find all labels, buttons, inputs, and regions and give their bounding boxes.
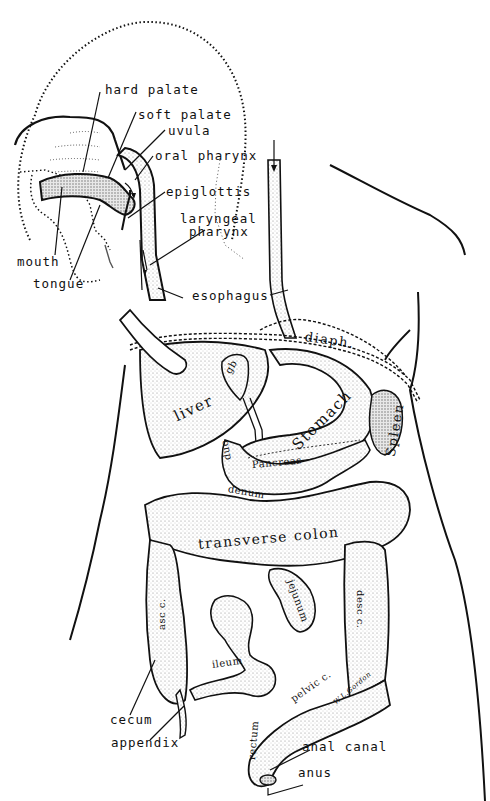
esophagus-tube: [268, 160, 296, 338]
digestive-system-diagram: [0, 0, 490, 801]
label-esophagus: esophagus: [192, 290, 269, 303]
label-anal-canal: anal canal: [302, 741, 387, 754]
label-anus: anus: [298, 767, 332, 780]
label-cecum: cecum: [110, 714, 153, 727]
label-soft-palate: soft palate: [138, 109, 232, 122]
label-uvula: uvula: [168, 125, 211, 138]
label-epiglottis: epiglottis: [166, 186, 251, 199]
label-tongue: tongue: [33, 278, 84, 291]
label-ascending-colon: asc c.: [157, 598, 167, 630]
label-appendix: appendix: [111, 737, 179, 750]
label-hard-palate: hard palate: [105, 84, 199, 97]
label-oral-pharynx: oral pharynx: [155, 150, 257, 163]
face-profile: [15, 117, 125, 170]
body-outline-right: [330, 165, 465, 255]
label-mouth: mouth: [17, 256, 60, 269]
label-descending-colon: desc c.: [355, 590, 365, 629]
label-pharynx: pharynx: [189, 226, 249, 239]
ileum-shape: [190, 596, 275, 700]
tongue-shape: [40, 174, 135, 215]
